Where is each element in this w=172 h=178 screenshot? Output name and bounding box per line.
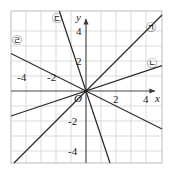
origin-label: O xyxy=(74,93,82,104)
origin-point xyxy=(84,89,87,92)
y-tick-label-pos4: 4 xyxy=(76,26,82,37)
y-axis-label: y xyxy=(76,12,81,23)
line-label-d: ㉣ xyxy=(12,36,22,46)
x-tick-label-pos4: 4 xyxy=(143,94,149,105)
x-axis-label: x xyxy=(155,93,160,104)
line-label-b: ㉡ xyxy=(147,59,157,69)
graph-figure: -4 -2 2 4 4 2 -2 -4 O x y ㉠ ㉡ ㉢ ㉣ xyxy=(0,0,172,178)
y-tick-label-neg4: -4 xyxy=(68,146,77,157)
y-tick-label-neg2: -2 xyxy=(68,116,77,127)
y-tick-label-pos2: 2 xyxy=(76,56,82,67)
line-label-a: ㉠ xyxy=(146,23,156,33)
line-label-c: ㉢ xyxy=(52,14,62,24)
x-tick-label-neg2: -2 xyxy=(47,72,56,83)
x-tick-label-neg4: -4 xyxy=(17,72,26,83)
x-tick-label-pos2: 2 xyxy=(113,94,119,105)
